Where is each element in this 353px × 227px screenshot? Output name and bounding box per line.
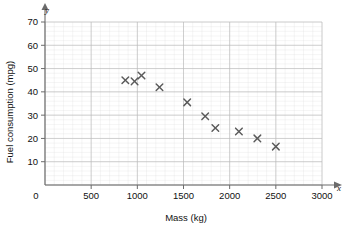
x-axis-letter: x xyxy=(336,183,341,193)
data-point-marker xyxy=(212,125,219,132)
y-tick-label: 70 xyxy=(27,16,38,27)
y-tick-label: 10 xyxy=(27,156,38,167)
y-tick-label: 40 xyxy=(27,86,38,97)
y-tick-label: 30 xyxy=(27,110,38,121)
y-tick-label: 50 xyxy=(27,63,38,74)
x-axis-title: Mass (kg) xyxy=(165,212,207,223)
x-tick-label: 1500 xyxy=(173,190,194,201)
x-tick-label: 500 xyxy=(83,190,99,201)
x-tick-label: 0 xyxy=(33,190,38,201)
x-tick-label: 2500 xyxy=(265,190,286,201)
x-tick-label: 2000 xyxy=(219,190,240,201)
scatter-plot-figure: 050010001500200025003000 10203040506070 … xyxy=(0,0,353,227)
axis-lines xyxy=(42,3,343,189)
x-tick-label: 3000 xyxy=(311,190,332,201)
data-point-marker xyxy=(184,99,191,106)
y-axis-title: Fuel consumption (mpg) xyxy=(4,61,15,163)
data-point-marker xyxy=(131,78,138,85)
major-gridlines xyxy=(45,22,322,185)
y-tick-label: 60 xyxy=(27,40,38,51)
x-tick-labels: 050010001500200025003000 xyxy=(33,190,332,201)
data-point-marker xyxy=(202,113,209,120)
axis-ticks xyxy=(41,22,322,189)
y-axis-letter: y xyxy=(44,5,49,15)
y-tick-labels: 10203040506070 xyxy=(27,16,38,167)
chart-canvas: 050010001500200025003000 10203040506070 … xyxy=(0,0,353,227)
x-tick-label: 1000 xyxy=(127,190,148,201)
y-tick-label: 20 xyxy=(27,133,38,144)
